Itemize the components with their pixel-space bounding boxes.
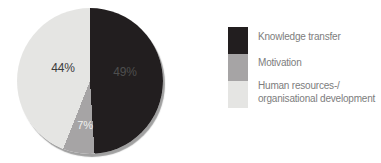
legend-swatch-motivation bbox=[228, 54, 248, 81]
legend-swatch-human-resources bbox=[228, 81, 248, 108]
pie-chart: 49% 7% 44% bbox=[17, 8, 163, 154]
slice-label-knowledge-transfer: 49% bbox=[113, 65, 136, 79]
legend-label-human-resources: Human resources-/ organisational develop… bbox=[258, 79, 375, 105]
legend-label-motivation: Motivation bbox=[258, 56, 302, 69]
legend-label-knowledge-transfer: Knowledge transfer bbox=[258, 30, 341, 43]
legend: Knowledge transfer Motivation Human reso… bbox=[228, 27, 378, 137]
pie-circle bbox=[17, 8, 163, 154]
legend-label-line-1: Human resources-/ bbox=[258, 79, 375, 92]
slice-label-human-resources: 44% bbox=[51, 61, 74, 75]
slice-label-motivation: 7% bbox=[77, 119, 93, 131]
pie-chart-figure: 49% 7% 44% Knowledge transfer Motivation… bbox=[0, 0, 381, 163]
legend-label-line-2: organisational development bbox=[258, 92, 375, 105]
legend-swatch-knowledge-transfer bbox=[228, 27, 248, 54]
legend-swatch-stack bbox=[228, 27, 248, 108]
